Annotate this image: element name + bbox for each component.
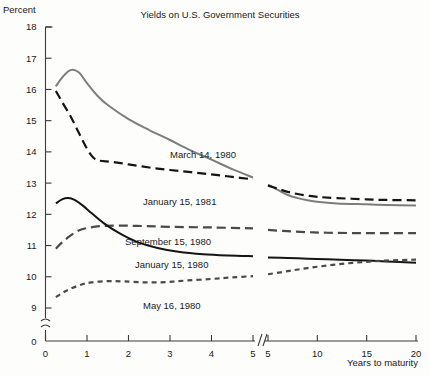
y-axis-break-icon [41,319,50,327]
y-tick-label: 13 [26,178,37,189]
x-tick-label: 3 [167,348,172,359]
y-tick-label: 12 [26,209,37,220]
series-label-1: March 14, 1980 [170,149,236,160]
y-tick-label: 16 [26,84,37,95]
series-label-5: May 16, 1980 [143,300,201,311]
series-curve-right [268,185,416,206]
series-label-2: January 15, 1981 [143,196,216,207]
x-tick-label: 15 [361,348,372,359]
x-tick-label: 10 [312,348,323,359]
y-axis-title: Percent [3,4,36,15]
y-tick-label: 18 [26,21,37,32]
y-tick-label: 15 [26,115,37,126]
yield-curve-chart: Yields on U.S. Government SecuritiesPerc… [0,0,429,376]
x-axis-title: Years to maturity [347,357,418,368]
y-tick-label: 10 [26,271,37,282]
y-tick-label-zero: 0 [31,336,36,347]
series-curve-right [268,230,416,233]
x-tick-label: 0 [43,348,48,359]
chart-title: Yields on U.S. Government Securities [140,9,299,20]
x-tick-label: 5 [250,348,255,359]
series-label-4: January 15, 1980 [135,259,208,270]
y-tick-label: 11 [27,240,37,251]
x-tick-label: 1 [84,348,89,359]
series-label-3: September 15, 1980 [125,236,211,247]
y-tick-label: 14 [26,146,37,157]
chart-container: Yields on U.S. Government SecuritiesPerc… [0,0,429,376]
x-tick-label: 2 [126,348,131,359]
series-curve-right [268,186,416,201]
series-curve-left [56,70,253,178]
x-axis-break-icon [258,334,267,346]
x-tick-label: 5 [265,348,270,359]
x-tick-label: 4 [209,348,214,359]
series-curve-left [56,276,253,297]
y-tick-label: 9 [31,302,36,313]
y-tick-label: 17 [26,53,37,64]
x-tick-label: 20 [411,348,422,359]
